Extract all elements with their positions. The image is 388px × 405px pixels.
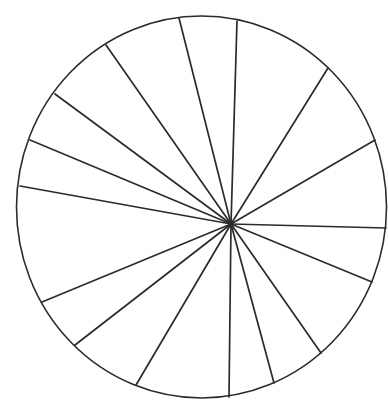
pie-outline (17, 16, 387, 398)
pie-chart-canvas (0, 0, 388, 405)
pie-chart (0, 0, 388, 405)
